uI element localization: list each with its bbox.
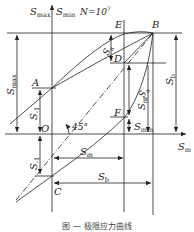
figure-caption: 图 — 极限应力曲线 [62,221,131,231]
smin-label: Smin [134,121,153,134]
point-b-label: B [151,19,159,30]
point-e-label: E [114,19,123,30]
sb-vertical-label: Sb [164,74,177,85]
point-a-label: A [31,77,39,88]
sm-vertical-label: Sm [136,97,149,110]
a-to-b-line [52,33,153,88]
smax-label: Smax [5,74,18,95]
s-minus1-lower-label: S-1 [28,157,41,170]
cycles-label: N=107 [79,5,111,17]
point-f-label: F [113,107,122,118]
point-c-label: C [54,186,62,197]
y-axis-label-max: Smax [30,6,51,19]
sm-horizontal-label: Sm [80,146,93,159]
point-o-label: O [41,123,49,134]
sb-horizontal-label: Sb [98,171,109,184]
y-axis-label-min: Smin [56,6,75,19]
point-d-label: D [113,53,122,64]
limit-stress-diagram: Smax Smin N=107 Sm E B D A O F C 45° Sma… [0,0,194,232]
angle-arc [66,124,69,134]
x-axis-label: Sm [178,141,191,154]
s-minus1-upper-label: S-1 [28,107,41,120]
angle-label: 45° [71,122,88,132]
